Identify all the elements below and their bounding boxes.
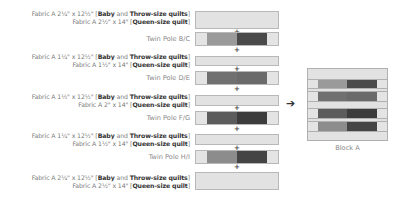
strip-end: [196, 72, 207, 84]
block-a-label: Block A: [307, 144, 388, 152]
plus-icon: +: [234, 164, 240, 171]
strip-dark: [237, 72, 268, 84]
arrow-right-icon: ➔: [286, 97, 295, 110]
strip-dark: [237, 112, 268, 124]
strip-end: [308, 92, 318, 101]
twin-pole-strip-de: [195, 71, 279, 85]
strip-end: [267, 33, 278, 45]
fabric-a-strip-5: [195, 172, 279, 190]
block-row-de: [308, 91, 387, 102]
block-row-fg: [308, 108, 387, 119]
strip-medium: [207, 151, 237, 163]
strip-end: [267, 72, 278, 84]
strip-medium: [207, 33, 237, 45]
fabric-label-1: Fabric A 2¼" x 12½" [Baby and Throw-size…: [32, 10, 190, 26]
strip-medium: [318, 122, 347, 131]
strip-end: [308, 80, 318, 88]
pole-label-fg: Twin Pole F/G: [147, 114, 190, 122]
strip-dark: [347, 80, 377, 88]
strip-end: [267, 151, 278, 163]
strip-end: [267, 112, 278, 124]
strip-end: [196, 112, 207, 124]
strip-dark: [237, 151, 268, 163]
strip-medium: [318, 92, 347, 101]
twin-pole-strip-bc: [195, 32, 279, 46]
block-row-bc: [308, 79, 387, 89]
strip-end: [196, 151, 207, 163]
twin-pole-strip-hi: [195, 150, 279, 164]
strip-medium: [207, 112, 237, 124]
twin-pole-strip-fg: [195, 111, 279, 125]
strip-end: [377, 109, 387, 118]
strip-medium: [318, 109, 347, 118]
pole-label-hi: Twin Pole H/I: [149, 153, 190, 161]
fabric-label-5: Fabric A 2¼" x 12½" [Baby and Throw-size…: [32, 174, 190, 190]
strip-end: [308, 122, 318, 131]
strip-end: [377, 122, 387, 131]
strip-dark: [237, 33, 268, 45]
strip-dark: [347, 122, 377, 131]
fabric-label-3: Fabric A 1½" x 12½" [Baby and Throw-size…: [32, 93, 190, 109]
fabric-label-4: Fabric A 1¼" x 12½" [Baby and Throw-size…: [32, 132, 190, 148]
block-row-hi: [308, 121, 387, 132]
strip-dark: [347, 109, 377, 118]
strip-end: [377, 92, 387, 101]
strip-end: [196, 33, 207, 45]
pole-label-de: Twin Pole D/E: [146, 74, 190, 82]
pole-label-bc: Twin Pole B/C: [146, 35, 190, 43]
strip-end: [377, 80, 387, 88]
strip-medium: [207, 72, 237, 84]
strip-dark: [347, 92, 377, 101]
fabric-label-2: Fabric A 1¼" x 12½" [Baby and Throw-size…: [32, 53, 190, 69]
fabric-a-strip-1: [195, 11, 279, 29]
block-a-diagram: [307, 68, 388, 141]
plus-icon: +: [234, 86, 240, 93]
plus-icon: +: [234, 47, 240, 54]
strip-end: [308, 109, 318, 118]
strip-medium: [318, 80, 347, 88]
plus-icon: +: [234, 126, 240, 133]
